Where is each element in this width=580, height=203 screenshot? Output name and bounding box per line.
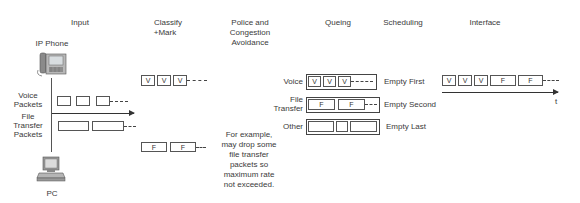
input-arrow [52, 113, 134, 114]
ip-phone-label: IP Phone [30, 39, 74, 49]
interface-packet: V [474, 75, 488, 86]
police-note-line: file transfer [214, 150, 284, 160]
classify-voice-packet: V [157, 75, 171, 86]
queue-other-packet [336, 121, 348, 132]
queue-voice-label: Voice [270, 77, 303, 87]
input-voice-packet [76, 96, 90, 106]
header-classify-line1: Classify [148, 18, 188, 28]
queue-voice-packet: V [338, 76, 351, 87]
classify-file-packet: F [141, 142, 167, 152]
police-note-line: maximum rate [214, 170, 284, 180]
header-police-line3: Avoidance [220, 38, 280, 48]
queue-file-packet: F [338, 99, 365, 110]
queue-other-packet [308, 121, 334, 132]
pc-icon [36, 156, 68, 182]
queue-file-packet: F [308, 99, 335, 110]
interface-packet: V [442, 75, 456, 86]
header-queuing: Queing [318, 18, 358, 28]
header-classify-line2: +Mark [148, 28, 182, 38]
classify-voice-packet: V [141, 75, 155, 86]
ip-phone-icon [34, 50, 68, 78]
queue-other-packet [350, 121, 377, 132]
time-axis-label: t [551, 97, 561, 107]
input-file-packet [58, 121, 89, 131]
schedule-other: Empty Last [386, 122, 446, 132]
file-packets-label-line3: Packets [10, 130, 46, 140]
pc-label: PC [40, 189, 64, 199]
voice-packets-label-line2: Packets [10, 100, 46, 110]
header-police-line1: Police and [220, 18, 280, 28]
input-voice-packet [96, 96, 110, 106]
input-file-trail [124, 126, 136, 127]
police-note-line: may drop some [214, 140, 284, 150]
schedule-file-transfer: Empty Second [384, 100, 444, 110]
queue-file-label-line2: Transfer [270, 104, 303, 114]
classify-file-trail [196, 147, 206, 148]
header-police-line2: Congestion [220, 28, 280, 38]
queue-voice-packet: V [323, 76, 336, 87]
interface-packet: V [458, 75, 472, 86]
input-link-line [51, 78, 52, 152]
classify-voice-packet: V [173, 75, 187, 86]
classify-voice-trail [187, 80, 207, 81]
header-scheduling: Scheduling [378, 18, 428, 28]
queue-voice-trail [351, 81, 373, 82]
time-axis-arrow [442, 92, 558, 93]
input-voice-trail [110, 101, 128, 102]
interface-trail [543, 80, 559, 81]
queue-other-label: Other [270, 122, 303, 132]
interface-packet: F [518, 75, 543, 86]
classify-file-packet: F [170, 142, 196, 152]
police-note-line: not exceeded. [214, 180, 284, 190]
header-input: Input [64, 18, 96, 28]
queue-file-trail [365, 104, 377, 105]
queue-voice-packet: V [308, 76, 321, 87]
schedule-voice: Empty First [384, 77, 444, 87]
input-file-packet [92, 121, 124, 131]
input-voice-packet [57, 96, 71, 106]
interface-packet: F [490, 75, 516, 86]
header-interface: Interface [460, 18, 510, 28]
police-note-line: packets so [214, 160, 284, 170]
